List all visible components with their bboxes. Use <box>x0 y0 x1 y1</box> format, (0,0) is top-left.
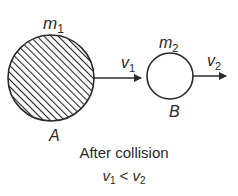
body-a: m1 A <box>8 14 94 144</box>
body-b-label: B <box>169 103 180 120</box>
body-a-circle <box>8 35 94 121</box>
body-a-label: A <box>48 127 60 144</box>
caption-condition: v1 < v2 <box>102 167 146 186</box>
velocity-v2-label: v2 <box>207 52 221 72</box>
velocity-v1: v1 <box>94 54 141 78</box>
body-b-mass-label: m2 <box>159 34 178 54</box>
caption-title: After collision <box>79 144 168 161</box>
body-b: m2 B <box>147 34 193 120</box>
velocity-v1-label: v1 <box>121 54 135 74</box>
velocity-v2: v2 <box>193 52 226 76</box>
collision-diagram: m1 A v1 m2 B v2 After collision v1 < v2 <box>0 0 238 196</box>
body-b-circle <box>147 53 193 99</box>
body-a-mass-label: m1 <box>43 14 64 36</box>
